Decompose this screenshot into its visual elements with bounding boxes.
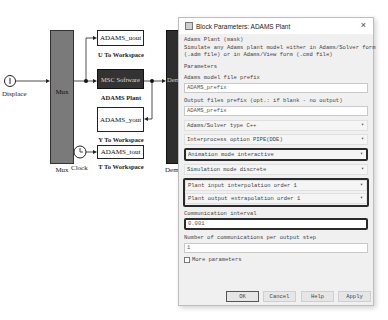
ok-button[interactable]: OK xyxy=(226,291,259,302)
simulation-mode-value: Simulation mode discrete xyxy=(187,166,266,173)
simulink-block-icon xyxy=(185,22,193,30)
animation-mode-select[interactable]: Animation mode interactive ▾ xyxy=(184,148,368,161)
close-icon[interactable]: × xyxy=(361,20,366,30)
u-to-workspace-block[interactable]: ADAMS_uout xyxy=(97,30,144,46)
chevron-down-icon: ▾ xyxy=(361,121,364,130)
interprocess-value: Interprocess option PIPE(DDE) xyxy=(187,136,283,143)
description-line-2: (.adm file) or in Adams/View form (.cmd … xyxy=(184,51,333,58)
solver-type-value: Adams/Solver type C++ xyxy=(187,122,256,129)
simulation-mode-select[interactable]: Simulation mode discrete ▾ xyxy=(184,164,368,175)
chevron-down-icon: ▾ xyxy=(360,150,363,159)
adams-plant-label: ADAMS Plant xyxy=(86,94,156,101)
displace-label: Displace xyxy=(2,90,27,98)
model-prefix-label: Adams model file prefix xyxy=(184,74,260,81)
block-parameters-dialog: Block Parameters: ADAMS Plant × Adams Pl… xyxy=(178,17,374,306)
apply-button[interactable]: Apply xyxy=(338,291,371,302)
mux-block[interactable]: Mux xyxy=(50,30,74,164)
chevron-down-icon: ▾ xyxy=(360,181,363,190)
model-prefix-input[interactable]: ADAMS_prefix xyxy=(184,83,368,93)
mask-name: Adams Plant (mask) xyxy=(184,36,243,43)
interprocess-select[interactable]: Interprocess option PIPE(DDE) ▾ xyxy=(184,134,368,145)
help-button[interactable]: Help xyxy=(301,291,334,302)
description-line-1: Simulate any Adams plant model either in… xyxy=(184,44,375,51)
num-communications-label: Number of communications per output step xyxy=(184,234,316,241)
u-to-workspace-label: U To Workspace xyxy=(86,51,156,58)
output-prefix-input[interactable]: ADAMS_prefix xyxy=(184,106,368,116)
clock-label: Clock xyxy=(71,164,88,172)
chevron-down-icon: ▾ xyxy=(361,135,364,144)
demux-label: Dem xyxy=(165,166,179,174)
more-parameters-checkbox[interactable] xyxy=(184,257,190,263)
t-to-workspace-block[interactable]: ADAMS_tout xyxy=(97,145,144,159)
output-extrapolation-value: Plant output extrapolation order 1 xyxy=(188,195,300,202)
output-extrapolation-select[interactable]: Plant output extrapolation order 1 ▾ xyxy=(185,193,367,204)
dialog-titlebar[interactable]: Block Parameters: ADAMS Plant × xyxy=(179,18,373,34)
num-communications-input[interactable]: 1 xyxy=(184,243,368,253)
solver-type-select[interactable]: Adams/Solver type C++ ▾ xyxy=(184,120,368,131)
comm-interval-input[interactable]: 0.001 xyxy=(184,218,368,230)
cancel-button[interactable]: Cancel xyxy=(263,291,296,302)
animation-mode-value: Animation mode interactive xyxy=(188,151,274,158)
y-to-workspace-label: Y To Workspace xyxy=(86,136,156,143)
parameters-heading: Parameters xyxy=(184,63,217,70)
output-prefix-label: Output files prefix (opt.: if blank - no… xyxy=(184,97,342,104)
chevron-down-icon: ▾ xyxy=(360,194,363,203)
chevron-down-icon: ▾ xyxy=(361,165,364,174)
t-to-workspace-label: T To Workspace xyxy=(86,163,156,170)
adams-plant-block[interactable]: MSC Software xyxy=(97,69,144,89)
more-parameters-label: More parameters xyxy=(192,256,242,263)
comm-interval-label: Communication interval xyxy=(184,210,257,217)
mux-inner-label: Mux xyxy=(51,88,73,96)
y-to-workspace-block[interactable]: ADAMS_yout xyxy=(97,107,144,132)
dialog-title: Block Parameters: ADAMS Plant xyxy=(196,23,290,30)
input-interpolation-value: Plant input interpolation order 1 xyxy=(188,182,297,189)
input-interpolation-select[interactable]: Plant input interpolation order 1 ▾ xyxy=(185,180,367,191)
